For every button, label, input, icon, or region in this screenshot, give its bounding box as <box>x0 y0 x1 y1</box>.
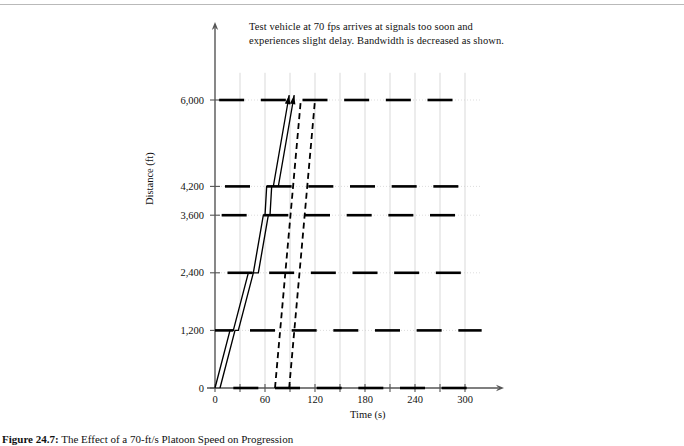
chart-tick-labels: 01,2002,4003,6004,2006,00006012018024030… <box>180 95 473 405</box>
figure-caption-label: Figure 24.7: <box>2 433 59 445</box>
chart-axes <box>207 22 504 391</box>
trajectory-arrow-stem <box>293 95 294 100</box>
trajectory-leading-platoon-edge <box>215 100 288 388</box>
trajectory-arrow-stem <box>288 95 289 100</box>
y-axis-title: Distance (ft) <box>144 152 155 205</box>
trajectory-reverse-band-trailing-edge <box>289 100 315 388</box>
x-axis-title: Time (s) <box>350 409 386 420</box>
x-tick-label: 180 <box>357 394 373 405</box>
figure-caption-text: The Effect of a 70-ft/s Platoon Speed on… <box>61 433 293 445</box>
y-tick-label: 0 <box>199 383 204 394</box>
time-space-diagram: 01,2002,4003,6004,2006,00006012018024030… <box>0 0 684 446</box>
y-tick-label: 1,200 <box>180 325 204 336</box>
y-tick-label: 3,600 <box>180 210 204 221</box>
x-tick-label: 120 <box>307 394 323 405</box>
x-tick-label: 240 <box>407 394 423 405</box>
x-tick-label: 300 <box>457 394 473 405</box>
chart-gridlines <box>215 73 480 388</box>
trajectory-trailing-platoon-edge <box>220 100 293 388</box>
chart-ticks <box>210 100 465 392</box>
y-tick-label: 6,000 <box>180 95 204 106</box>
figure-page: Test vehicle at 70 fps arrives at signal… <box>0 0 684 446</box>
figure-caption: Figure 24.7: The Effect of a 70-ft/s Pla… <box>2 433 682 446</box>
x-tick-label: 60 <box>260 394 271 405</box>
signal-green-bands <box>215 100 482 388</box>
y-tick-label: 2,400 <box>180 267 204 278</box>
y-tick-label: 4,200 <box>180 181 204 192</box>
x-tick-label: 0 <box>212 394 217 405</box>
trajectory-reverse-band-leading-edge <box>275 100 301 388</box>
